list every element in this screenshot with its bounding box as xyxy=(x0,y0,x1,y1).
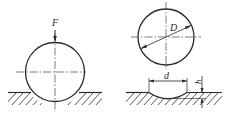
indent-depth-label: h xyxy=(193,79,203,84)
ball-diameter-label: D xyxy=(169,22,178,33)
right-figure: D d h xyxy=(122,2,225,108)
arrowhead-icon xyxy=(201,88,204,93)
arrowhead-icon xyxy=(149,80,154,83)
left-figure: F xyxy=(4,17,107,112)
arrowhead-icon xyxy=(201,99,204,104)
arrowhead-icon xyxy=(185,25,192,30)
force-label: F xyxy=(51,17,59,28)
brinell-hardness-diagram: F D d xyxy=(0,0,234,119)
force-arrowhead-icon xyxy=(53,36,57,42)
arrowhead-icon xyxy=(182,80,187,83)
indent-diameter-label: d xyxy=(164,70,170,81)
arrowhead-icon xyxy=(140,45,147,50)
